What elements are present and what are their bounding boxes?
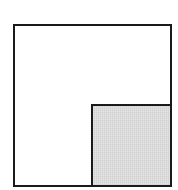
diagram-canvas (0, 0, 178, 190)
shaded-inner-square (92, 105, 171, 186)
